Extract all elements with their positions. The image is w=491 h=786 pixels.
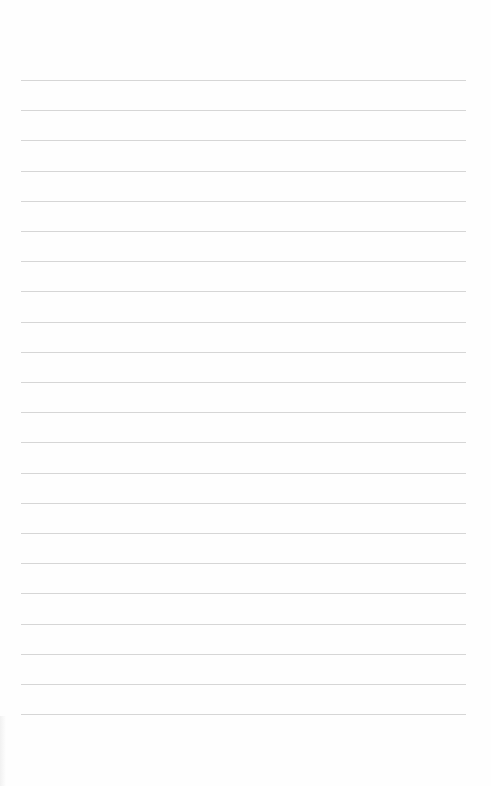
ruled-line (21, 503, 466, 504)
page-edge-shadow (0, 716, 6, 786)
ruled-line (21, 322, 466, 323)
ruled-line (21, 533, 466, 534)
ruled-line (21, 201, 466, 202)
ruled-line (21, 654, 466, 655)
ruled-line (21, 442, 466, 443)
ruled-line (21, 593, 466, 594)
ruled-line (21, 714, 466, 715)
ruled-line (21, 563, 466, 564)
lined-paper-page (0, 0, 491, 786)
ruled-line (21, 261, 466, 262)
ruled-line (21, 140, 466, 141)
ruled-line (21, 382, 466, 383)
ruled-line (21, 291, 466, 292)
ruled-line (21, 231, 466, 232)
ruled-line (21, 624, 466, 625)
ruled-line (21, 171, 466, 172)
ruled-line (21, 110, 466, 111)
ruled-line (21, 473, 466, 474)
ruled-line (21, 412, 466, 413)
ruled-line (21, 684, 466, 685)
ruled-line (21, 80, 466, 81)
ruled-line (21, 352, 466, 353)
